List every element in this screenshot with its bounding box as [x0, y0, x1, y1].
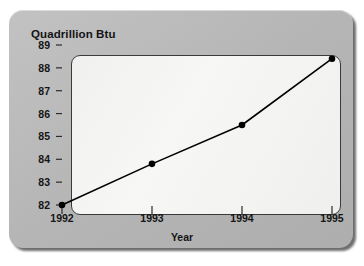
x-axis-title: Year	[0, 231, 364, 243]
chart-figure: Quadrillion Btu 828384858687888919921993…	[0, 0, 364, 266]
chart-panel: Quadrillion Btu	[9, 10, 353, 248]
plot-area	[71, 55, 341, 215]
chart-title: Quadrillion Btu	[31, 28, 116, 40]
